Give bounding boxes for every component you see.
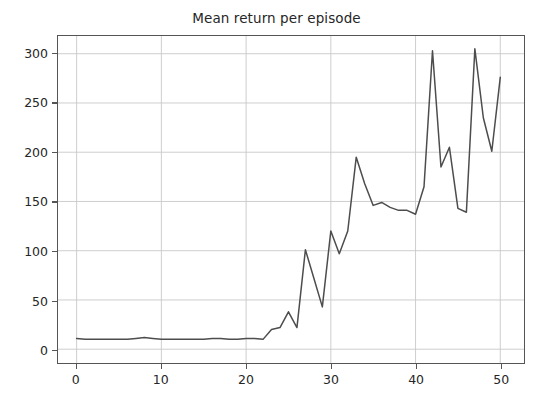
x-tick-label: 0 [72,372,80,387]
chart-figure: Mean return per episode 0501001502002503… [0,0,553,414]
y-tick-label: 50 [0,293,48,308]
x-tick-label: 40 [408,372,424,387]
data-series-line [77,49,501,340]
x-tick-mark [161,364,162,369]
x-tick-mark [501,364,502,369]
y-tick-mark [52,152,57,153]
y-tick-label: 150 [0,194,48,209]
y-tick-label: 0 [0,343,48,358]
y-tick-label: 100 [0,244,48,259]
x-tick-mark [246,364,247,369]
plot-area [57,35,525,364]
x-tick-label: 20 [238,372,254,387]
y-tick-mark [52,102,57,103]
x-tick-label: 50 [493,372,509,387]
y-tick-mark [52,251,57,252]
x-tick-mark [76,364,77,369]
y-tick-mark [52,201,57,202]
y-tick-mark [52,53,57,54]
y-tick-label: 250 [0,95,48,110]
x-tick-label: 30 [323,372,339,387]
chart-title: Mean return per episode [0,10,553,26]
x-tick-mark [331,364,332,369]
y-tick-label: 200 [0,144,48,159]
data-line-layer [58,36,524,363]
x-tick-mark [416,364,417,369]
y-tick-label: 300 [0,45,48,60]
x-tick-label: 10 [153,372,169,387]
y-tick-mark [52,350,57,351]
y-tick-mark [52,301,57,302]
